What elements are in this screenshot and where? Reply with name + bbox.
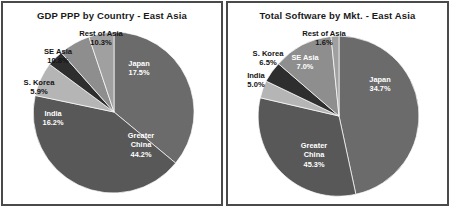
- slice-label-s-korea-name: S. Korea: [11, 78, 67, 87]
- slice-label-greater-china-pct: 44.2%: [115, 150, 167, 159]
- slice-label-rest-of-asia: Rest of Asia 1.6%: [288, 29, 360, 48]
- slice-label-rest-of-asia-name: Rest of Asia: [65, 29, 137, 38]
- slice-label-greater-china: Greater China 45.3%: [288, 141, 340, 169]
- slice-label-greater-china-pct: 45.3%: [288, 160, 340, 169]
- slice-label-se-asia: SE Asia 7.0%: [280, 53, 330, 72]
- slice-label-se-asia-pct: 7.0%: [280, 62, 330, 71]
- slice-label-rest-of-asia: Rest of Asia 10.3%: [65, 29, 137, 48]
- pie-plot-area-gdp-ppp: Rest of Asia 10.3% SE Asia 10.8% S. Kore…: [3, 3, 221, 204]
- slice-label-india-name: India: [234, 71, 278, 80]
- slice-label-greater-china: Greater China 44.2%: [115, 131, 167, 159]
- slice-label-se-asia: SE Asia 10.8%: [33, 47, 83, 66]
- slice-label-se-asia-pct: 10.8%: [33, 56, 83, 65]
- slice-label-greater-china-name-1: Greater: [288, 141, 340, 150]
- slice-label-japan-pct: 34.7%: [356, 84, 404, 93]
- slice-label-india: India 16.2%: [31, 109, 75, 128]
- slice-label-se-asia-name: SE Asia: [280, 53, 330, 62]
- slice-label-se-asia-name: SE Asia: [33, 47, 83, 56]
- slice-label-india-name: India: [31, 109, 75, 118]
- slice-label-india: India 5.0%: [234, 71, 278, 90]
- slice-label-japan: Japan 34.7%: [356, 75, 404, 94]
- slice-label-india-pct: 5.0%: [234, 80, 278, 89]
- slice-label-s-korea: S. Korea 5.9%: [11, 78, 67, 97]
- chart-panel-total-software: Total Software by Mkt. - East Asia Rest …: [226, 1, 449, 206]
- pie-plot-area-total-software: Rest of Asia 1.6% S. Korea 6.5% India 5.…: [228, 3, 447, 204]
- slice-label-japan-name: Japan: [356, 75, 404, 84]
- slice-label-greater-china-name-2: China: [288, 150, 340, 159]
- slice-label-s-korea-pct: 5.9%: [11, 87, 67, 96]
- slice-label-japan-name: Japan: [115, 59, 163, 68]
- two-pie-chart-figure: GDP PPP by Country - East Asia Rest of: [0, 0, 452, 207]
- slice-label-rest-of-asia-name: Rest of Asia: [288, 29, 360, 38]
- chart-panel-gdp-ppp: GDP PPP by Country - East Asia Rest of: [1, 1, 223, 206]
- slice-label-japan: Japan 17.5%: [115, 59, 163, 78]
- slice-label-rest-of-asia-pct: 1.6%: [288, 38, 360, 47]
- slice-label-greater-china-name-2: China: [115, 140, 167, 149]
- slice-label-greater-china-name-1: Greater: [115, 131, 167, 140]
- slice-label-japan-pct: 17.5%: [115, 68, 163, 77]
- slice-label-india-pct: 16.2%: [31, 118, 75, 127]
